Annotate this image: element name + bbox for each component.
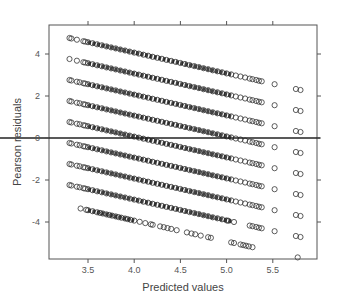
y-tick-label: -2 (32, 175, 40, 185)
data-point (231, 219, 236, 224)
data-point (250, 245, 255, 250)
data-point (143, 221, 148, 226)
y-tick-label: 2 (35, 91, 40, 101)
data-point (161, 225, 166, 230)
data-point (272, 208, 277, 213)
residual-plot: 3.54.04.55.05.5 -4-2024 Predicted values… (0, 0, 337, 306)
data-point (272, 124, 277, 129)
data-point (169, 226, 174, 231)
data-point (272, 187, 277, 192)
overplotted-band (88, 42, 231, 74)
data-point (165, 226, 170, 231)
x-tick-label: 4.0 (128, 265, 141, 275)
x-tick-label: 5.5 (267, 265, 280, 275)
data-point (272, 166, 277, 171)
x-tick-label: 4.5 (174, 265, 187, 275)
data-point (272, 82, 277, 87)
x-axis-title: Predicted values (142, 281, 224, 293)
data-point (193, 232, 198, 237)
data-point (74, 37, 79, 42)
scatter-points (67, 35, 303, 260)
y-tick-label: 4 (35, 49, 40, 59)
y-tick-label: 0 (35, 133, 40, 143)
data-point (174, 228, 179, 233)
x-tick-label: 3.5 (82, 265, 95, 275)
data-point (158, 224, 163, 229)
plot-frame (49, 25, 317, 259)
y-tick-label: -4 (32, 217, 40, 227)
data-point (272, 145, 277, 150)
x-tick-label: 5.0 (220, 265, 233, 275)
y-axis-title: Pearson residuals (11, 97, 23, 186)
data-point (272, 229, 277, 234)
data-point (198, 233, 203, 238)
data-point (272, 103, 277, 108)
data-point (78, 206, 83, 211)
data-point (137, 219, 142, 224)
data-point (74, 58, 79, 63)
data-point (67, 56, 72, 61)
